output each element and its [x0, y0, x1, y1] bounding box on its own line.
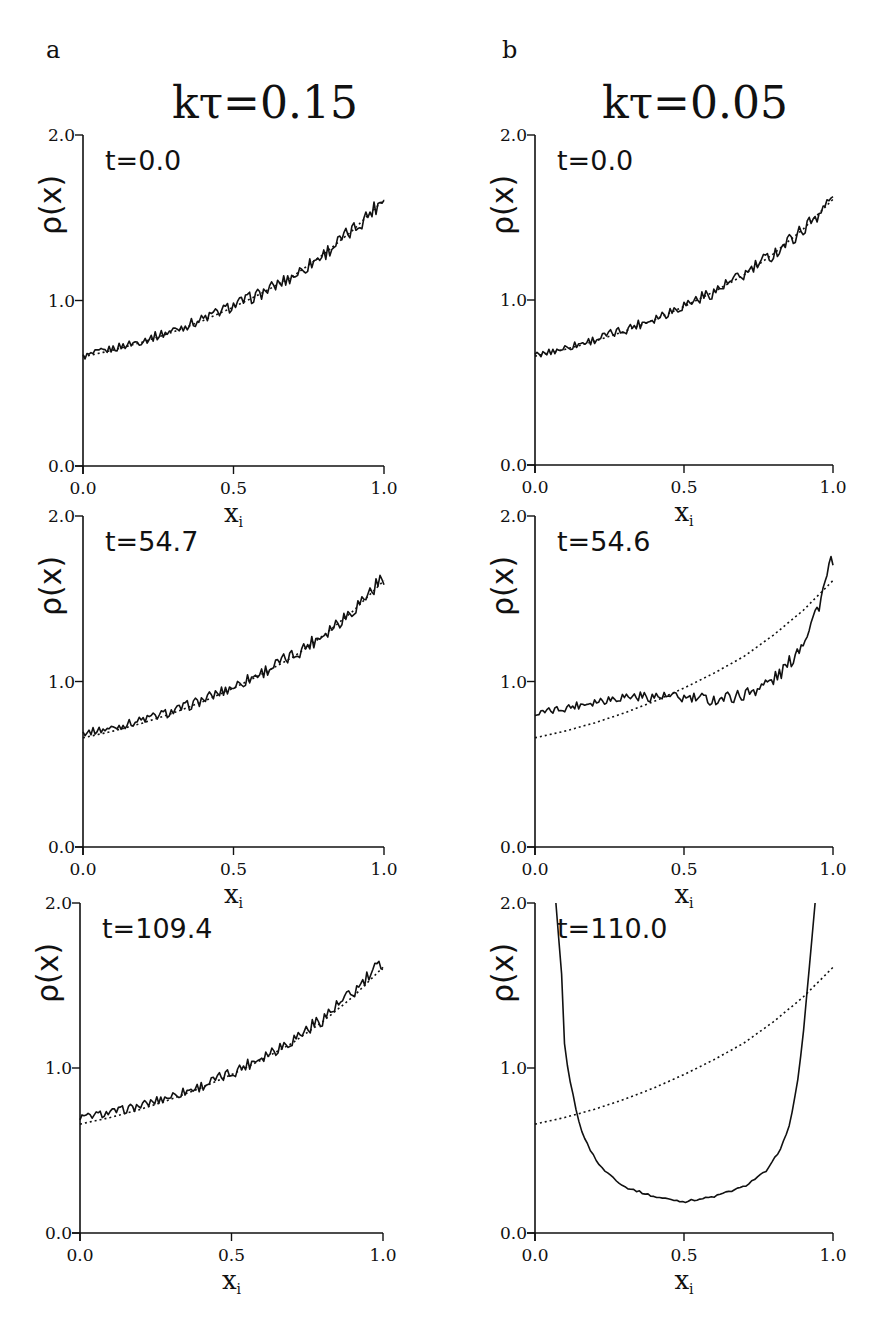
chart-panel-a-2: 0.01.02.00.00.51.0xiρ(x)t=54.7 [33, 506, 398, 911]
x-axis-label: xi [222, 1265, 242, 1297]
y-axis-label: ρ(x) [485, 943, 520, 1003]
theory-curve [80, 967, 383, 1124]
chart-panel-b-1: 0.01.02.00.00.51.0xiρ(x)t=0.0 [485, 125, 847, 529]
time-annotation: t=110.0 [557, 913, 668, 944]
y-axis-label: ρ(x) [30, 943, 65, 1003]
y-tick-label: 1.0 [500, 290, 527, 310]
y-tick-label: 0.0 [48, 456, 75, 476]
simulation-curve [83, 200, 384, 359]
time-annotation: t=54.7 [105, 526, 198, 557]
panel-letter: a [46, 36, 60, 64]
x-tick-label: 0.0 [69, 478, 96, 498]
y-axis-label: ρ(x) [485, 556, 520, 616]
x-tick-label: 0.5 [670, 477, 697, 497]
y-tick-label: 1.0 [48, 291, 75, 311]
simulation-curve [83, 575, 384, 735]
x-tick-label: 0.5 [670, 1245, 697, 1265]
chart-panel-a-3: 0.01.02.00.00.51.0xiρ(x)t=109.4 [30, 893, 397, 1297]
x-axis-label: xi [224, 879, 244, 911]
time-annotation: t=54.6 [557, 526, 650, 557]
y-tick-label: 2.0 [48, 125, 75, 145]
x-axis-label: xi [674, 1265, 694, 1297]
y-tick-label: 0.0 [500, 1223, 527, 1243]
time-annotation: t=109.4 [102, 913, 213, 944]
x-axis-label: xi [224, 498, 244, 530]
y-tick-label: 2.0 [500, 893, 527, 913]
y-tick-label: 2.0 [500, 125, 527, 145]
theory-curve [535, 199, 833, 356]
chart-panel-b-2: 0.01.02.00.00.51.0xiρ(x)t=54.6 [485, 506, 847, 911]
y-tick-label: 1.0 [500, 672, 527, 692]
figure-canvas: akτ=0.15bkτ=0.050.01.02.00.00.51.0xiρ(x)… [0, 0, 881, 1335]
y-tick-label: 1.0 [45, 1058, 72, 1078]
y-tick-label: 0.0 [48, 837, 75, 857]
x-tick-label: 0.5 [670, 859, 697, 879]
y-tick-label: 1.0 [500, 1058, 527, 1078]
y-tick-label: 2.0 [45, 893, 72, 913]
x-tick-label: 0.0 [69, 859, 96, 879]
simulation-curve [535, 557, 833, 716]
y-axis-label: ρ(x) [33, 175, 68, 235]
x-tick-label: 0.5 [220, 859, 247, 879]
column-title: kτ=0.15 [172, 77, 358, 128]
theory-curve [83, 200, 384, 357]
x-tick-label: 1.0 [370, 478, 397, 498]
x-tick-label: 0.5 [220, 478, 247, 498]
chart-panel-b-3: 0.01.02.00.00.51.0xiρ(x)t=110.0 [485, 893, 847, 1297]
x-tick-label: 0.5 [218, 1245, 245, 1265]
x-tick-label: 0.0 [521, 1245, 548, 1265]
theory-curve [535, 967, 833, 1124]
x-tick-label: 1.0 [370, 859, 397, 879]
x-tick-label: 1.0 [819, 1245, 846, 1265]
x-tick-label: 0.0 [66, 1245, 93, 1265]
y-axis-label: ρ(x) [485, 175, 520, 235]
y-tick-label: 0.0 [45, 1223, 72, 1243]
x-tick-label: 1.0 [819, 859, 846, 879]
time-annotation: t=0.0 [557, 145, 633, 176]
chart-panel-a-1: 0.01.02.00.00.51.0xiρ(x)t=0.0 [33, 125, 398, 530]
panel-letter: b [502, 36, 517, 64]
y-tick-label: 1.0 [48, 672, 75, 692]
theory-curve [83, 581, 384, 738]
y-tick-label: 0.0 [500, 455, 527, 475]
x-axis-label: xi [674, 497, 694, 529]
y-tick-label: 2.0 [500, 506, 527, 526]
y-tick-label: 0.0 [500, 837, 527, 857]
simulation-curve [80, 961, 383, 1120]
x-axis-label: xi [674, 879, 694, 911]
simulation-curve [556, 903, 815, 1202]
time-annotation: t=0.0 [105, 145, 181, 176]
x-tick-label: 1.0 [819, 477, 846, 497]
y-axis-label: ρ(x) [33, 556, 68, 616]
column-title: kτ=0.05 [602, 77, 788, 128]
simulation-curve [535, 197, 833, 357]
x-tick-label: 0.0 [521, 477, 548, 497]
x-tick-label: 0.0 [521, 859, 548, 879]
x-tick-label: 1.0 [369, 1245, 396, 1265]
y-tick-label: 2.0 [48, 506, 75, 526]
